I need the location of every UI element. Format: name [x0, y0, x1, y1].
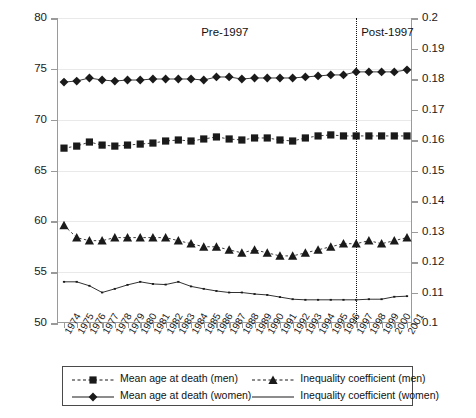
right-axis-tick-label: 0.13 [422, 226, 444, 238]
right-axis-tick-label: 0.12 [422, 256, 444, 268]
data-point-triangle [339, 239, 348, 248]
data-point-triangle [326, 242, 335, 251]
data-point-diamond [237, 75, 246, 84]
data-point-diamond [250, 74, 259, 83]
data-point-square [340, 132, 347, 139]
data-point-diamond [136, 76, 145, 85]
data-point-diamond [98, 76, 107, 85]
data-point-diamond [276, 74, 285, 83]
data-point-square [251, 134, 258, 141]
data-point-triangle [364, 236, 373, 245]
data-point-square [137, 140, 144, 147]
legend-item[interactable]: Mean age at death (women) [71, 389, 251, 401]
left-axis-tick-label: 50 [34, 317, 47, 329]
data-point-square [264, 134, 271, 141]
right-axis-tick-label: 0.17 [422, 104, 444, 116]
data-point-square [175, 136, 182, 143]
series-3 [59, 221, 411, 260]
data-point [139, 281, 141, 283]
data-point [63, 281, 65, 283]
left-axis-tick-label: 80 [34, 12, 47, 24]
data-point-triangle [72, 233, 81, 242]
data-point [152, 283, 154, 285]
data-point-diamond [377, 67, 386, 76]
data-point-triangle [59, 221, 68, 230]
data-point [393, 296, 395, 298]
data-point-square [86, 138, 93, 145]
data-point-triangle [390, 236, 399, 245]
data-point-diamond [403, 65, 412, 74]
data-point-square [149, 139, 156, 146]
data-point-square [276, 136, 283, 143]
data-point [228, 292, 230, 294]
series-4 [63, 281, 408, 301]
legend-item[interactable]: Inequality coefficient (women) [251, 389, 439, 401]
data-point [76, 281, 78, 283]
data-point-diamond [110, 77, 119, 86]
data-point-square [200, 135, 207, 142]
data-point [292, 298, 294, 300]
data-point-diamond [60, 78, 69, 87]
data-point [241, 292, 243, 294]
right-axis-tick-label: 0.19 [422, 43, 444, 55]
data-point-diamond [161, 75, 170, 84]
data-point-diamond [85, 74, 94, 83]
data-point-diamond [301, 73, 310, 82]
left-axis-tick-label: 70 [34, 114, 47, 126]
data-point-diamond [212, 73, 221, 82]
data-point-square [213, 133, 220, 140]
series-line [64, 282, 407, 300]
legend-item[interactable]: Mean age at death (men) [71, 372, 251, 384]
legend: Mean age at death (men)Inequality coeffi… [62, 366, 413, 406]
left-axis-tick [51, 171, 58, 173]
series-1 [60, 131, 410, 151]
data-point [368, 298, 370, 300]
data-point-square [289, 137, 296, 144]
data-point [279, 296, 281, 298]
data-point-square [365, 132, 372, 139]
data-point-diamond [339, 71, 348, 80]
chart-figure: 50556065707580 0.10.110.120.130.140.150.… [0, 0, 476, 418]
data-point [330, 299, 332, 301]
data-point-triangle [263, 248, 272, 257]
left-axis-tick [51, 221, 58, 223]
data-point-triangle [301, 248, 310, 257]
right-axis-tick-label: 0.11 [422, 287, 444, 299]
data-point-diamond [199, 76, 208, 85]
data-point [126, 284, 128, 286]
data-point-diamond [263, 74, 272, 83]
left-axis-tick [51, 69, 58, 71]
data-point-triangle [199, 242, 208, 251]
data-point-triangle [402, 233, 411, 242]
data-point-diamond [225, 73, 234, 82]
plot-area: 50556065707580 0.10.110.120.130.140.150.… [57, 18, 412, 323]
data-point [406, 295, 408, 297]
data-point-diamond [174, 75, 183, 84]
data-point [190, 286, 192, 288]
left-axis-tick-label: 65 [34, 165, 47, 177]
legend-label: Inequality coefficient (women) [300, 389, 439, 401]
data-point [88, 285, 90, 287]
legend-item[interactable]: Inequality coefficient (men) [251, 372, 439, 384]
data-point [114, 288, 116, 290]
left-axis-tick [51, 323, 58, 325]
data-point-square [73, 143, 80, 150]
legend-key-square-icon [71, 372, 115, 384]
data-point [342, 299, 344, 301]
data-point [380, 298, 382, 300]
data-point-square [403, 132, 410, 139]
data-point-square [314, 132, 321, 139]
data-point-square [187, 137, 194, 144]
data-point [165, 284, 167, 286]
data-point-square [327, 131, 334, 138]
data-point-diamond [364, 67, 373, 76]
data-point-square [60, 145, 67, 152]
data-point [203, 288, 205, 290]
data-point-diamond [149, 75, 158, 84]
right-axis-tick-label: 0.16 [422, 134, 444, 146]
legend-label: Inequality coefficient (men) [300, 372, 425, 384]
legend-key-none-icon [251, 389, 295, 401]
data-point-triangle [110, 233, 119, 242]
data-point-square [302, 134, 309, 141]
data-point [304, 299, 306, 301]
